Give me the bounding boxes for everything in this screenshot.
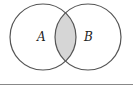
set-b-label: B [83,30,93,44]
set-a-label: A [36,30,46,44]
venn-diagram: A B [0,0,133,93]
